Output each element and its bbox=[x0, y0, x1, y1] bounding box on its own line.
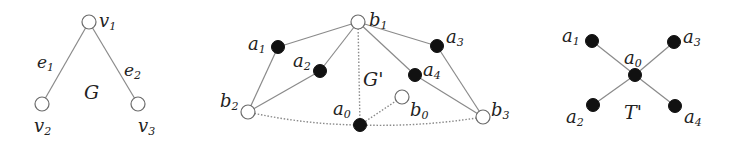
node-Gprime-b2 bbox=[241, 105, 255, 119]
node-G-v3 bbox=[131, 97, 145, 111]
node-Gprime-a2 bbox=[314, 65, 327, 78]
node-Gprime-a0 bbox=[354, 119, 367, 132]
graph-title-G: G bbox=[84, 81, 99, 103]
edge-Gprime-a1-b2 bbox=[248, 47, 278, 112]
node-label-G-v3: v3 bbox=[138, 115, 155, 138]
node-Gprime-a4 bbox=[409, 69, 422, 82]
node-label-Gprime-b1: b1 bbox=[369, 9, 388, 32]
node-label-Gprime-b2: b2 bbox=[220, 90, 239, 113]
node-G-v2 bbox=[35, 97, 49, 111]
node-Tprime-a0 bbox=[629, 69, 642, 82]
node-Gprime-b1 bbox=[351, 15, 365, 29]
labels-layer: e1e2v1v2v3Gb1a1a2a3a4b2a0b0b3G'a1a3a0a2a… bbox=[34, 9, 702, 138]
edge-Gprime-a2-b2 bbox=[248, 71, 320, 112]
node-label-G-v2: v2 bbox=[34, 115, 51, 138]
node-label-G-v1: v1 bbox=[99, 10, 116, 33]
node-label-Gprime-a0: a0 bbox=[333, 98, 351, 121]
node-Gprime-a1 bbox=[272, 41, 285, 54]
node-Gprime-b0 bbox=[395, 90, 409, 104]
graph-title-Tprime: T' bbox=[624, 101, 642, 123]
graph-diagram: e1e2v1v2v3Gb1a1a2a3a4b2a0b0b3G'a1a3a0a2a… bbox=[0, 0, 729, 142]
edge-Gprime-b1-a0 bbox=[358, 22, 360, 125]
edge-label-e1: e1 bbox=[37, 52, 54, 74]
edge-Gprime-a3-b3 bbox=[437, 46, 483, 117]
node-label-Gprime-a4: a4 bbox=[423, 59, 441, 82]
node-label-Tprime-a4: a4 bbox=[684, 106, 702, 129]
node-label-Gprime-a3: a3 bbox=[446, 26, 464, 49]
edge-label-e2: e2 bbox=[124, 60, 141, 82]
node-G-v1 bbox=[82, 15, 96, 29]
node-label-Tprime-a2: a2 bbox=[566, 106, 584, 129]
node-label-Tprime-a3: a3 bbox=[683, 26, 701, 49]
edge-Gprime-b1-a1 bbox=[278, 22, 358, 47]
node-Gprime-a3 bbox=[431, 40, 444, 53]
node-Tprime-a1 bbox=[586, 35, 599, 48]
graph-title-Gprime: G' bbox=[363, 68, 383, 90]
node-Tprime-a4 bbox=[669, 100, 682, 113]
node-Gprime-b3 bbox=[476, 110, 490, 124]
node-label-Gprime-a2: a2 bbox=[293, 50, 311, 73]
node-label-Tprime-a0: a0 bbox=[624, 47, 642, 70]
edge-Gprime-b1-a2 bbox=[320, 22, 358, 71]
node-Tprime-a2 bbox=[587, 99, 600, 112]
node-Tprime-a3 bbox=[668, 36, 681, 49]
node-label-Gprime-a1: a1 bbox=[248, 33, 266, 56]
node-label-Gprime-b3: b3 bbox=[491, 99, 510, 122]
node-label-Tprime-a1: a1 bbox=[562, 25, 580, 48]
node-label-Gprime-b0: b0 bbox=[410, 99, 429, 122]
